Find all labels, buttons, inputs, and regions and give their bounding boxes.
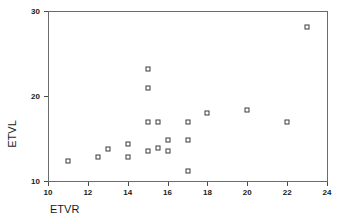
y-tick-20 xyxy=(44,96,48,97)
x-tick-label-24: 24 xyxy=(323,188,332,197)
data-point xyxy=(65,159,70,164)
data-point xyxy=(125,155,130,160)
data-point xyxy=(125,142,130,147)
x-tick-label-16: 16 xyxy=(163,188,172,197)
data-point xyxy=(155,145,160,150)
data-point xyxy=(185,119,190,124)
y-tick-label-20: 20 xyxy=(24,92,40,101)
x-tick-14 xyxy=(128,182,129,186)
x-tick-label-22: 22 xyxy=(283,188,292,197)
scatter-plot: 1012141618202224 102030 ETVR ETVL xyxy=(0,0,347,224)
y-tick-10 xyxy=(44,181,48,182)
y-tick-label-10: 10 xyxy=(24,177,40,186)
data-point xyxy=(305,25,310,30)
plot-border-right xyxy=(327,11,328,182)
x-tick-22 xyxy=(287,182,288,186)
plot-border-top xyxy=(48,11,328,12)
data-point xyxy=(145,66,150,71)
x-tick-16 xyxy=(168,182,169,186)
x-tick-label-18: 18 xyxy=(203,188,212,197)
x-axis-line xyxy=(48,181,328,182)
x-tick-20 xyxy=(247,182,248,186)
x-tick-label-20: 20 xyxy=(243,188,252,197)
x-tick-label-10: 10 xyxy=(44,188,53,197)
data-point xyxy=(145,86,150,91)
data-point xyxy=(165,149,170,154)
x-tick-18 xyxy=(207,182,208,186)
data-point xyxy=(145,119,150,124)
data-point xyxy=(95,155,100,160)
y-axis-line xyxy=(48,11,49,182)
y-tick-label-30: 30 xyxy=(24,7,40,16)
x-axis-title: ETVR xyxy=(50,203,79,215)
x-tick-10 xyxy=(48,182,49,186)
data-point xyxy=(245,107,250,112)
data-point xyxy=(155,119,160,124)
data-point xyxy=(205,111,210,116)
plot-area xyxy=(48,11,327,181)
x-tick-label-14: 14 xyxy=(123,188,132,197)
y-tick-30 xyxy=(44,11,48,12)
data-point xyxy=(285,119,290,124)
x-tick-12 xyxy=(88,182,89,186)
data-point xyxy=(165,138,170,143)
x-tick-24 xyxy=(327,182,328,186)
y-axis-title: ETVL xyxy=(6,106,18,162)
data-point xyxy=(145,149,150,154)
x-tick-label-12: 12 xyxy=(83,188,92,197)
data-point xyxy=(185,138,190,143)
data-point xyxy=(185,168,190,173)
data-point xyxy=(105,146,110,151)
